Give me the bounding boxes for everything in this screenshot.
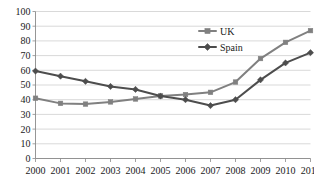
- x-tick-label: 2008: [226, 165, 246, 176]
- data-point-marker: [233, 80, 238, 85]
- data-point-marker: [33, 96, 38, 101]
- y-tick-label: 0: [26, 153, 31, 164]
- data-point-marker: [82, 78, 88, 84]
- y-tick-label: 20: [21, 124, 31, 135]
- x-tick-label: 2002: [76, 165, 96, 176]
- legend-label: UK: [220, 26, 235, 37]
- data-point-marker: [204, 43, 211, 50]
- x-tick-label: 2007: [201, 165, 221, 176]
- y-axis-ticks: 0102030405060708090100: [16, 6, 36, 164]
- data-point-marker: [83, 102, 88, 107]
- data-point-marker: [207, 102, 213, 108]
- data-point-marker: [132, 86, 138, 92]
- y-tick-label: 100: [16, 6, 31, 17]
- x-tick-label: 2004: [126, 165, 146, 176]
- x-tick-label: 2011: [301, 165, 314, 176]
- data-point-marker: [58, 101, 63, 106]
- line-chart: 0102030405060708090100 20002001200220032…: [0, 0, 314, 183]
- data-point-marker: [108, 100, 113, 105]
- data-point-marker: [208, 90, 213, 95]
- data-point-marker: [308, 28, 313, 33]
- legend-label: Spain: [220, 42, 243, 53]
- data-point-marker: [107, 83, 113, 89]
- legend-item-spain: Spain: [199, 42, 243, 53]
- x-tick-label: 2005: [151, 165, 171, 176]
- data-point-marker: [182, 97, 188, 103]
- x-tick-label: 2000: [26, 165, 46, 176]
- y-tick-label: 50: [21, 79, 31, 90]
- data-point-marker: [307, 50, 313, 56]
- data-series: [32, 28, 313, 108]
- gridlines: [36, 12, 311, 159]
- data-point-marker: [32, 68, 38, 74]
- y-tick-label: 40: [21, 94, 31, 105]
- series-line: [36, 31, 311, 105]
- y-tick-label: 30: [21, 109, 31, 120]
- series-uk: [33, 28, 313, 106]
- chart-plot-area: 0102030405060708090100 20002001200220032…: [0, 0, 314, 183]
- x-tick-label: 2010: [276, 165, 296, 176]
- y-tick-label: 70: [21, 50, 31, 61]
- data-point-marker: [183, 92, 188, 97]
- x-tick-label: 2009: [251, 165, 271, 176]
- chart-legend: UKSpain: [199, 26, 243, 53]
- y-tick-label: 60: [21, 65, 31, 76]
- data-point-marker: [57, 73, 63, 79]
- y-tick-label: 80: [21, 35, 31, 46]
- data-point-marker: [205, 28, 210, 33]
- x-tick-label: 2003: [101, 165, 121, 176]
- x-tick-label: 2001: [51, 165, 71, 176]
- y-tick-label: 90: [21, 21, 31, 32]
- data-point-marker: [283, 40, 288, 45]
- data-point-marker: [133, 97, 138, 102]
- x-axis-ticks: 2000200120022003200420052006200720082009…: [26, 159, 315, 176]
- data-point-marker: [258, 56, 263, 61]
- y-tick-label: 10: [21, 138, 31, 149]
- series-line: [36, 53, 311, 106]
- x-tick-label: 2006: [176, 165, 196, 176]
- legend-item-uk: UK: [199, 26, 235, 37]
